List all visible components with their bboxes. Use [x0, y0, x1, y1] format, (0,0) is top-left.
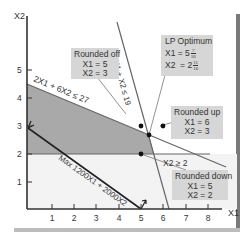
y-axis-label: X2 — [14, 11, 25, 21]
constraint-label-3: X2 ≥ 2 — [163, 158, 188, 168]
x-tick-labels: 1 2 3 4 5 6 7 8 — [50, 213, 211, 223]
callout-title: LP Optimum — [165, 37, 210, 47]
frame-bottom-edge — [14, 228, 240, 232]
x-axis-label: X1 — [228, 208, 239, 218]
y-tick-labels: 1 2 3 4 5 — [17, 65, 22, 187]
point-rounded-down — [139, 152, 144, 157]
svg-text:4: 4 — [117, 213, 122, 223]
svg-text:6: 6 — [161, 213, 166, 223]
callout-x2: X2 = 3 — [174, 127, 220, 137]
svg-text:2: 2 — [72, 213, 77, 223]
svg-text:5: 5 — [139, 213, 144, 223]
svg-text:7: 7 — [184, 213, 189, 223]
callout-rounded-down: Rounded down X1 = 5 X2 = 2 — [172, 170, 228, 200]
svg-text:4: 4 — [17, 93, 22, 103]
point-rounded-off — [139, 124, 144, 129]
callout-rounded-up: Rounded up X1 = 6 X2 = 3 — [171, 106, 223, 139]
callout-x2: X2 = 21116 — [165, 60, 210, 71]
callout-x1: X1 = 5716 — [165, 48, 210, 59]
svg-text:3: 3 — [17, 121, 22, 131]
callout-rounded-off: Rounded off X1 = 5 X2 = 3 — [71, 48, 119, 79]
svg-text:1: 1 — [50, 213, 55, 223]
lp-rounding-diagram: X2 X1 1 2 3 4 5 1 2 3 4 5 6 7 8 2X1 + 6X… — [0, 0, 248, 239]
feasible-region — [27, 84, 154, 154]
fraction: 716 — [191, 48, 196, 59]
svg-text:2: 2 — [17, 149, 22, 159]
svg-text:8: 8 — [206, 213, 211, 223]
svg-text:3: 3 — [94, 213, 99, 223]
fraction: 1116 — [193, 60, 198, 71]
svg-text:5: 5 — [17, 65, 22, 75]
point-lp-optimum — [147, 133, 152, 138]
point-rounded-up — [161, 124, 166, 129]
callout-x2: X2 = 2 — [175, 191, 225, 201]
callout-lp-optimum: LP Optimum X1 = 5716 X2 = 21116 — [161, 35, 213, 76]
callout-x2: X2 = 3 — [74, 69, 116, 79]
svg-text:1: 1 — [17, 177, 22, 187]
